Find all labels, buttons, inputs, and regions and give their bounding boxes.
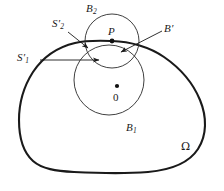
origin-dot: [115, 84, 119, 88]
label-b1-subscript: 1: [133, 126, 137, 135]
point-p-dot: [110, 39, 115, 44]
label-b2-letter: B: [86, 2, 93, 14]
label-b2: B2: [86, 3, 97, 16]
label-s1-letter: S: [17, 51, 23, 63]
label-b1-letter: B: [126, 121, 133, 133]
label-s2-prime: S′2: [52, 18, 64, 31]
label-b2-subscript: 2: [93, 7, 97, 16]
label-b-prime-letter: B: [164, 22, 171, 34]
label-s1-subscript: 1: [25, 56, 29, 65]
label-s1-prime: S′1: [17, 52, 29, 65]
label-b-prime: B′: [164, 23, 173, 34]
geometry-figure: B2 P B′ S′2 S′1 0 B1 Ω: [0, 0, 224, 191]
label-s2-letter: S: [52, 17, 58, 29]
label-omega: Ω: [181, 141, 190, 152]
label-origin: 0: [113, 92, 119, 103]
label-b1: B1: [126, 122, 137, 135]
label-point-p: P: [108, 26, 115, 37]
label-b-prime-mark: ′: [171, 22, 173, 34]
omega-boundary-curve: [19, 41, 205, 173]
circle-b1: [74, 45, 144, 115]
label-s2-subscript: 2: [60, 22, 64, 31]
